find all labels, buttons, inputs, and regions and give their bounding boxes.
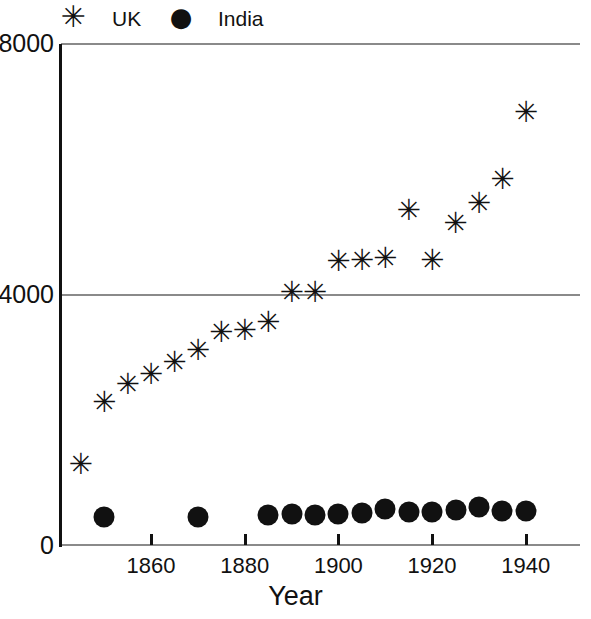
circle-marker-icon: ● [166,2,196,32]
x-axis-title: Year [0,583,591,610]
y-tick-label-8000: 8000 [0,31,54,56]
x-tick-1920 [431,534,434,545]
data-point-india-1870 [187,506,208,527]
data-point-uk-1910: ✳ [370,244,400,274]
x-tick-1940 [525,534,528,545]
y-axis-line [59,44,62,547]
data-point-uk-1915: ✳ [394,196,424,226]
data-point-uk-1935: ✳ [487,165,517,195]
x-axis-line [61,544,580,546]
gridline-8000 [61,43,580,45]
data-point-india-1920 [422,502,443,523]
y-tick-label-0: 0 [40,533,54,558]
x-tick-label-1860: 1860 [127,555,176,577]
y-axis-labels: 8000 4000 0 [0,0,54,619]
data-point-uk-1940: ✳ [511,98,541,128]
data-point-india-1925 [445,499,466,520]
x-tick-label-1900: 1900 [314,555,363,577]
data-point-india-1940 [515,501,536,522]
x-tick-1900 [337,534,340,545]
data-point-uk-1845: ✳ [66,450,96,480]
legend-label-india: India [218,8,264,29]
data-point-uk-1920: ✳ [417,246,447,276]
data-point-uk-1885: ✳ [253,308,283,338]
data-point-india-1890 [281,504,302,525]
data-point-india-1935 [492,501,513,522]
data-point-india-1905 [351,503,372,524]
x-tick-1880 [244,534,247,545]
data-point-india-1885 [258,504,279,525]
data-point-india-1910 [375,499,396,520]
data-point-india-1900 [328,504,349,525]
chart-legend: ✳ UK ● India [0,0,591,40]
data-point-india-1915 [398,501,419,522]
asterisk-marker-icon: ✳ [58,2,88,32]
y-tick-label-4000: 4000 [0,282,54,307]
legend-label-uk: UK [112,8,141,29]
x-tick-label-1940: 1940 [501,555,550,577]
data-point-india-1850 [94,507,115,528]
x-tick-label-1880: 1880 [220,555,269,577]
data-point-uk-1895: ✳ [300,278,330,308]
x-tick-label-1920: 1920 [408,555,457,577]
data-point-india-1930 [468,497,489,518]
x-tick-1860 [150,534,153,545]
data-point-india-1895 [304,504,325,525]
chart-canvas: ✳ UK ● India 8000 4000 0 186018801900192… [0,0,591,619]
